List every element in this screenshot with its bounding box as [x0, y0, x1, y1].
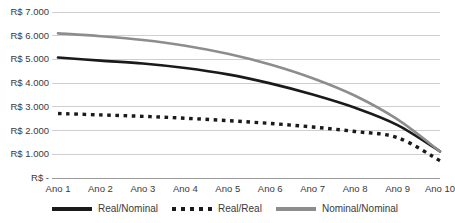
legend-item-1[interactable]: Real/Real [172, 204, 262, 214]
series-layer [58, 33, 440, 160]
y-tick-label: R$ 4.000 [0, 78, 49, 88]
series-line-0 [58, 58, 440, 152]
series-line-2 [58, 33, 440, 151]
x-tick-label: Ano 3 [130, 184, 155, 194]
y-tick-label: R$ 1.000 [0, 149, 49, 159]
y-tick-label: R$ 3.000 [0, 102, 49, 112]
x-tick-label: Ano 5 [215, 184, 240, 194]
legend-item-0[interactable]: Real/Nominal [52, 204, 158, 214]
x-tick-label: Ano 2 [88, 184, 113, 194]
legend-label: Real/Real [218, 204, 262, 214]
x-tick-label: Ano 1 [46, 184, 71, 194]
legend-item-2[interactable]: Nominal/Nominal [276, 204, 398, 214]
x-tick-label: Ano 4 [173, 184, 198, 194]
x-tick-label: Ano 7 [300, 184, 325, 194]
series-line-1 [58, 114, 440, 161]
y-tick-label: R$ 6.000 [0, 31, 49, 41]
y-tick-label: R$ - [0, 173, 49, 183]
y-tick-label: R$ 2.000 [0, 126, 49, 136]
x-tick-label: Ano 9 [385, 184, 410, 194]
y-tick-label: R$ 7.000 [0, 7, 49, 17]
legend-label: Nominal/Nominal [322, 204, 398, 214]
y-tick-label: R$ 5.000 [0, 54, 49, 64]
legend-swatch-icon [172, 207, 212, 211]
x-tick-label: Ano 6 [258, 184, 283, 194]
legend-swatch-icon [276, 207, 316, 211]
chart-legend: Real/NominalReal/RealNominal/Nominal [0, 199, 450, 219]
legend-swatch-icon [52, 207, 92, 211]
x-tick-label: Ano 10 [425, 184, 455, 194]
x-tick-label: Ano 8 [343, 184, 368, 194]
legend-label: Real/Nominal [98, 204, 158, 214]
